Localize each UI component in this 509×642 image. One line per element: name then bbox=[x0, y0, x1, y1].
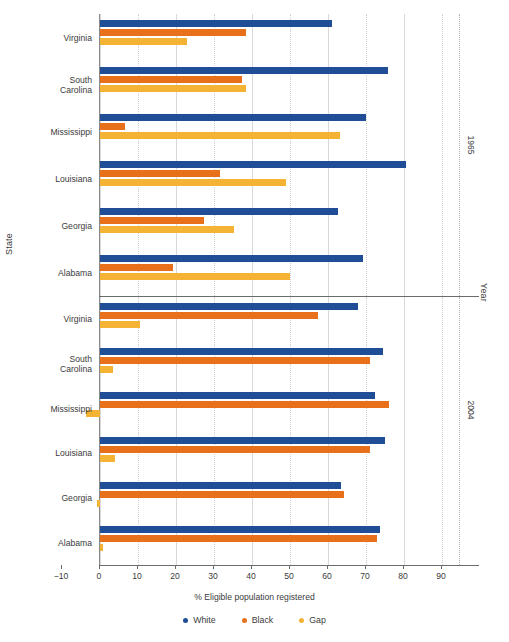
y-axis-title: State bbox=[4, 233, 14, 255]
bar-group bbox=[100, 342, 479, 387]
bar-black bbox=[100, 170, 220, 177]
y-tick-label-line: Carolina bbox=[0, 85, 92, 95]
y-tick-label-line: Virginia bbox=[0, 314, 92, 324]
bar-black bbox=[100, 217, 204, 224]
bar-black bbox=[100, 446, 370, 453]
bar-group bbox=[100, 61, 479, 108]
y-tick-label-line: Carolina bbox=[0, 364, 92, 374]
bar-white bbox=[100, 20, 332, 27]
bar-group bbox=[100, 476, 479, 521]
bar-black bbox=[100, 535, 377, 542]
bar-gap bbox=[100, 226, 234, 233]
y-tick-label: SouthCarolina bbox=[0, 75, 92, 95]
y-tick-label: Alabama bbox=[0, 268, 92, 278]
bar-white bbox=[100, 114, 366, 121]
x-axis-title: % Eligible population registered bbox=[0, 592, 509, 602]
legend-item[interactable]: Gap bbox=[299, 615, 326, 625]
legend-label: Gap bbox=[309, 615, 326, 625]
y-tick-label: Mississippi bbox=[0, 404, 92, 414]
x-tick-label: 30 bbox=[198, 571, 228, 581]
bar-black bbox=[100, 491, 344, 498]
legend-swatch-icon bbox=[299, 618, 304, 623]
y-tick-label: Louisiana bbox=[0, 448, 92, 458]
bar-gap bbox=[100, 544, 103, 551]
bar-white bbox=[100, 161, 406, 168]
panel-2004 bbox=[99, 297, 479, 565]
bar-black bbox=[100, 401, 389, 408]
panel-1965 bbox=[99, 14, 479, 296]
bar-group bbox=[100, 520, 479, 565]
x-tick-label: 80 bbox=[388, 571, 418, 581]
x-tick bbox=[251, 565, 252, 569]
x-tick-label: −10 bbox=[46, 571, 76, 581]
bar-group bbox=[100, 386, 479, 431]
y-tick-label: SouthCarolina bbox=[0, 354, 92, 374]
strip-axis-title: Year bbox=[479, 283, 489, 302]
y-tick-label: Louisiana bbox=[0, 174, 92, 184]
bar-group bbox=[100, 431, 479, 476]
bar-white bbox=[100, 437, 385, 444]
bar-gap bbox=[100, 366, 113, 373]
bar-group bbox=[100, 14, 479, 61]
bar-white bbox=[100, 67, 388, 74]
bar-black bbox=[100, 76, 242, 83]
bar-white bbox=[100, 303, 358, 310]
y-tick-label-line: South bbox=[0, 354, 92, 364]
y-tick-label: Alabama bbox=[0, 538, 92, 548]
bar-gap bbox=[100, 85, 246, 92]
bar-gap bbox=[100, 38, 187, 45]
bar-white bbox=[100, 348, 383, 355]
y-tick-label: Georgia bbox=[0, 493, 92, 503]
x-tick bbox=[365, 565, 366, 569]
bar-white bbox=[100, 482, 341, 489]
bar-gap bbox=[100, 179, 286, 186]
x-tick bbox=[99, 565, 100, 569]
y-tick-label-line: Mississippi bbox=[0, 127, 92, 137]
x-tick-label: 0 bbox=[84, 571, 114, 581]
bar-chart: State Year 1965 2004 VirginiaSouthCaroli… bbox=[0, 0, 509, 642]
x-tick-label: 50 bbox=[274, 571, 304, 581]
y-tick-label-line: Georgia bbox=[0, 221, 92, 231]
y-tick-label-line: Louisiana bbox=[0, 174, 92, 184]
x-tick-label: 10 bbox=[122, 571, 152, 581]
bar-group bbox=[100, 108, 479, 155]
y-tick-label: Mississippi bbox=[0, 127, 92, 137]
bar-black bbox=[100, 312, 318, 319]
bar-white bbox=[100, 392, 375, 399]
y-tick-label: Virginia bbox=[0, 314, 92, 324]
y-tick-label-line: Georgia bbox=[0, 493, 92, 503]
bar-gap bbox=[97, 500, 100, 507]
legend-label: Black bbox=[252, 615, 274, 625]
bar-gap bbox=[100, 321, 140, 328]
x-tick-label: 40 bbox=[236, 571, 266, 581]
x-tick-label: 60 bbox=[312, 571, 342, 581]
bar-group bbox=[100, 155, 479, 202]
x-tick-label: 90 bbox=[426, 571, 456, 581]
chart-legend: WhiteBlackGap bbox=[0, 615, 509, 625]
x-tick bbox=[289, 565, 290, 569]
y-tick-label-line: Virginia bbox=[0, 33, 92, 43]
x-tick-label: 20 bbox=[160, 571, 190, 581]
legend-item[interactable]: Black bbox=[242, 615, 274, 625]
y-tick-label-line: Mississippi bbox=[0, 404, 92, 414]
bar-group bbox=[100, 297, 479, 342]
legend-swatch-icon bbox=[183, 618, 188, 623]
bar-group bbox=[100, 202, 479, 249]
x-tick bbox=[213, 565, 214, 569]
bar-white bbox=[100, 208, 338, 215]
bar-black bbox=[100, 357, 370, 364]
bar-gap bbox=[100, 273, 290, 280]
x-tick bbox=[61, 565, 62, 569]
bar-black bbox=[100, 123, 125, 130]
bar-gap bbox=[100, 132, 340, 139]
y-tick-label-line: Alabama bbox=[0, 268, 92, 278]
y-tick-label: Virginia bbox=[0, 33, 92, 43]
legend-swatch-icon bbox=[242, 618, 247, 623]
y-tick-label-line: Alabama bbox=[0, 538, 92, 548]
legend-item[interactable]: White bbox=[183, 615, 216, 625]
bar-white bbox=[100, 526, 380, 533]
bar-white bbox=[100, 255, 363, 262]
bar-gap bbox=[100, 455, 115, 462]
x-tick bbox=[327, 565, 328, 569]
bar-black bbox=[100, 29, 246, 36]
